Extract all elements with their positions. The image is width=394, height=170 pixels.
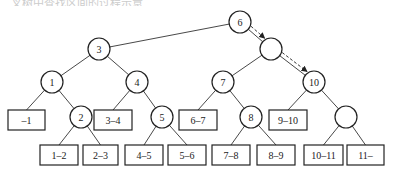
tree-edge (107, 56, 128, 75)
svg-text:8: 8 (249, 112, 254, 123)
tree-edge (230, 91, 244, 109)
tree-node-2: 2 (70, 106, 92, 128)
tree-edge (288, 90, 307, 110)
tree-node-empty (335, 106, 357, 128)
svg-text:1–2: 1–2 (52, 150, 67, 161)
tree-edge (27, 90, 45, 110)
search-path-arrow (282, 53, 307, 72)
tree-edge (59, 90, 74, 108)
tree-edge (61, 55, 90, 75)
tree-edge (110, 24, 229, 47)
tree-edge (144, 126, 156, 145)
svg-text:9–10: 9–10 (278, 115, 298, 126)
tree-edge (198, 90, 216, 110)
tree-edge (321, 90, 338, 109)
svg-text:6: 6 (238, 17, 243, 28)
tree-edge (113, 90, 130, 110)
tree-node-10: 10 (303, 71, 325, 93)
leaf-interval-3-4: 3–4 (94, 110, 132, 130)
tree-edge (231, 126, 245, 145)
svg-text:7: 7 (221, 77, 226, 88)
tree-node-4: 4 (126, 71, 148, 93)
tree-edge (143, 91, 155, 108)
tree-edge (324, 126, 340, 145)
tree-edge (232, 55, 262, 76)
tree-node-3: 3 (88, 38, 110, 60)
tree-node-8: 8 (240, 106, 262, 128)
leaf-interval-4-5: 4–5 (125, 145, 163, 165)
svg-text:4–5: 4–5 (137, 150, 152, 161)
leaf-interval-9-10: 9–10 (269, 110, 307, 130)
svg-text:7–8: 7–8 (224, 150, 239, 161)
leaf-interval-11-: 11– (347, 145, 384, 165)
tree-node-7: 7 (212, 71, 234, 93)
tree-edge (59, 126, 74, 145)
tree-diagram: 二叉树中查找区间的过程示意 –11–22–33–44–55–66–77–88–9… (0, 0, 394, 170)
leaf-interval-5-6: 5–6 (168, 145, 206, 165)
leaf-interval-2-3: 2–3 (83, 145, 118, 165)
svg-text:3: 3 (97, 44, 102, 55)
svg-text:6–7: 6–7 (191, 115, 206, 126)
svg-text:10–11: 10–11 (311, 150, 336, 161)
tree-edge (352, 126, 365, 145)
svg-text:–1: –1 (21, 115, 32, 126)
svg-text:5: 5 (160, 112, 165, 123)
tree-edge (280, 56, 306, 76)
svg-text:2: 2 (79, 112, 84, 123)
caption-text: 二叉树中查找区间的过程示意 (0, 0, 150, 6)
leaf-interval-7-8: 7–8 (212, 145, 250, 165)
svg-text:2–3: 2–3 (93, 150, 108, 161)
svg-text:5–6: 5–6 (180, 150, 195, 161)
leaf-interval-1-2: 1–2 (40, 145, 78, 165)
leaf-interval-8-9: 8–9 (257, 145, 295, 165)
svg-text:8–9: 8–9 (269, 150, 284, 161)
svg-text:3–4: 3–4 (106, 115, 121, 126)
search-path-arrow (251, 26, 265, 38)
tree-node-5: 5 (151, 106, 173, 128)
leaf-interval-6-7: 6–7 (179, 110, 217, 130)
leaf-interval-10-11: 10–11 (304, 145, 343, 165)
tree-node-empty (260, 38, 282, 60)
tree-node-6: 6 (229, 11, 251, 33)
tree-node-1: 1 (41, 71, 63, 93)
svg-text:1: 1 (50, 77, 55, 88)
svg-text:4: 4 (135, 77, 140, 88)
tree-edge (248, 29, 262, 42)
tree-svg: –11–22–33–44–55–66–77–88–99–1010–1111– 6… (0, 0, 394, 170)
svg-text:11–: 11– (358, 150, 374, 161)
leaf-interval--1: –1 (8, 110, 45, 130)
svg-text:10: 10 (309, 77, 319, 88)
